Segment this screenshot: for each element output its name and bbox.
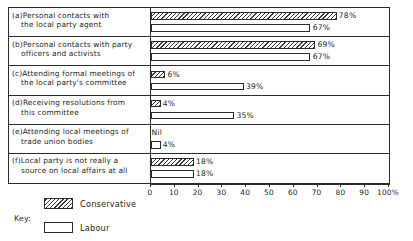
x-axis-tick [221,184,222,187]
bar-labour [151,83,244,91]
chart-row-label-line2: the local party's committee [12,78,148,88]
bar-conservative [151,41,315,49]
x-axis-tick [340,184,341,187]
bar-group-labour: 4% [151,141,175,149]
chart-row: (a)Personal contacts withthe local party… [9,8,389,37]
bar-group-labour: 67% [151,53,330,61]
chart-row: (d)Receiving resolutions fromthis commit… [9,96,389,125]
bar-labour [151,24,310,32]
chart-row: (e)Attending local meetings oftrade unio… [9,125,389,154]
x-axis-tick-label: 90 [359,189,369,197]
bar-group-labour: 67% [151,24,330,32]
bar-group-conservative: 6% [151,71,180,79]
chart-row: (b)Personal contacts with partyofficers … [9,37,389,66]
bar-value-conservative: 6% [167,71,179,79]
bar-labour [151,170,194,178]
legend-label-conservative: Conservative [80,199,136,209]
chart-legend: Key: Conservative Labour [14,196,214,241]
x-axis-tick [198,184,199,187]
bar-group-conservative: 78% [151,12,356,20]
chart-row-label-line1: (a)Personal contacts with [12,11,109,20]
bar-labour [151,141,161,149]
bar-group-conservative: 69% [151,41,335,49]
chart-row-plot: 6%39% [151,66,389,94]
chart-row-label-line2: source on local affairs at all [12,166,148,176]
chart-row-label-line1: (e)Attending local meetings of [12,127,129,136]
chart-row: (c)Attending formal meetings ofthe local… [9,66,389,95]
chart-row-label-line1: (b)Personal contacts with party [12,40,132,49]
chart-row-plot: 78%67% [151,8,389,36]
chart-row-plot: 4%35% [151,96,389,124]
chart-row-label: (c)Attending formal meetings ofthe local… [9,66,151,94]
bar-value-labour: 18% [196,170,213,178]
x-axis-tick [150,184,151,187]
x-axis-tick [174,184,175,187]
chart-row-label: (f)Local party is not really asource on … [9,154,151,183]
chart-row-label-line2: trade union bodies [12,137,148,147]
legend-swatch-labour-icon [44,222,73,233]
chart-row-label-line1: (c)Attending formal meetings of [12,69,135,78]
x-axis-tick [293,184,294,187]
chart-row-label-line1: (f)Local party is not really a [12,156,118,165]
legend-item-conservative: Conservative [44,198,136,209]
chart-row-label-line2: the local party agent [12,20,148,30]
x-axis-tick [364,184,365,187]
bar-value-labour: 67% [313,24,330,32]
bar-group-conservative: 18% [151,158,214,166]
bar-group-conservative: Nil [151,129,162,137]
x-axis-tick-label: 80 [335,189,345,197]
x-axis-tick [317,184,318,187]
bar-conservative [151,12,337,20]
legend-item-labour: Labour [44,222,110,233]
bar-value-labour: 67% [313,53,330,61]
x-axis-tick-label: 60 [288,189,298,197]
bar-value-labour: 39% [246,83,263,91]
chart-row-label-line1: (d)Receiving resolutions from [12,98,125,107]
x-axis-tick-label: 40 [240,189,250,197]
bar-group-labour: 35% [151,112,254,120]
chart-row-plot: 69%67% [151,37,389,65]
bar-value-conservative: Nil [152,129,163,137]
legend-swatch-conservative-icon [44,198,73,209]
chart-plot-table: (a)Personal contacts withthe local party… [8,7,390,184]
legend-label-labour: Labour [80,223,110,233]
bar-group-conservative: 4% [151,100,175,108]
bar-group-labour: 39% [151,83,263,91]
bar-value-conservative: 78% [339,12,356,20]
chart-row-label: (e)Attending local meetings oftrade unio… [9,125,151,153]
bar-chart-figure: (a)Personal contacts withthe local party… [0,0,413,241]
bar-conservative [151,71,165,79]
bar-group-labour: 18% [151,170,214,178]
chart-row-label: (b)Personal contacts with partyofficers … [9,37,151,65]
x-axis-tick [269,184,270,187]
chart-row-plot: Nil4% [151,125,389,153]
bar-value-conservative: 69% [317,41,334,49]
x-axis-tick [245,184,246,187]
x-axis-tick-label: 70 [312,189,322,197]
x-axis-line [150,184,390,185]
bar-value-labour: 4% [163,141,175,149]
chart-row-label-line2: this committee [12,108,148,118]
bar-labour [151,53,310,61]
bar-value-conservative: 4% [163,100,175,108]
chart-row-plot: 18%18% [151,154,389,183]
x-axis-tick-label: 100% [377,189,399,197]
chart-row: (f)Local party is not really asource on … [9,154,389,183]
x-axis-tick [388,184,389,187]
chart-row-label: (d)Receiving resolutions fromthis commit… [9,96,151,124]
legend-title: Key: [14,214,31,223]
x-axis-tick-label: 30 [216,189,226,197]
bar-conservative [151,158,194,166]
bar-labour [151,112,234,120]
bar-value-conservative: 18% [196,158,213,166]
chart-row-label-line2: officers and activists [12,49,148,59]
x-axis-tick-label: 50 [264,189,274,197]
chart-row-label: (a)Personal contacts withthe local party… [9,8,151,36]
bar-conservative [151,100,161,108]
bar-value-labour: 35% [236,112,253,120]
